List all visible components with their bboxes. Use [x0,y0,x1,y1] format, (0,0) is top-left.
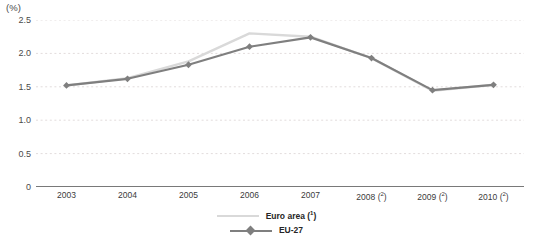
data-point-marker [307,34,314,41]
legend-item-eu-27[interactable]: EU-27 [230,224,303,237]
line-chart: (%) 00.51.01.52.02.5 2003200420052006200… [0,0,533,239]
y-axis-tick-1.5: 1.5 [18,82,31,91]
data-point-marker [63,82,70,89]
legend-swatch-icon [230,225,272,236]
x-axis-tick-2003: 2003 [57,191,76,200]
y-axis-tick-labels: 00.51.01.52.02.5 [0,0,36,239]
chart-legend: Euro area (1)EU-27 [0,209,533,237]
legend-label: EU-27 [279,226,303,235]
series-line-eu-27 [67,37,494,90]
plot-svg [36,20,524,187]
x-axis-tick-2006: 2006 [240,191,259,200]
legend-item-euro-area[interactable]: Euro area (1) [217,209,317,222]
x-axis-tick-2009: 2009 (2) [417,191,447,201]
legend-swatch-icon [217,210,259,221]
y-axis-tick-0: 0 [26,183,31,192]
data-point-marker [246,43,253,50]
y-axis-tick-2.0: 2.0 [18,49,31,58]
x-axis-tick-2010: 2010 (2) [478,191,508,201]
x-axis-tick-2008: 2008 (2) [356,191,386,201]
x-axis-tick-2005: 2005 [179,191,198,200]
data-point-marker [490,81,497,88]
x-axis-tick-2004: 2004 [118,191,137,200]
x-axis-tick-labels: 200320042005200620072008 (2)2009 (2)2010… [36,191,524,207]
plot-area [36,20,524,187]
y-axis-tick-0.5: 0.5 [18,149,31,158]
x-axis-tick-2007: 2007 [301,191,320,200]
legend-label: Euro area (1) [266,210,317,220]
y-axis-tick-2.5: 2.5 [18,16,31,25]
y-axis-tick-1.0: 1.0 [18,116,31,125]
